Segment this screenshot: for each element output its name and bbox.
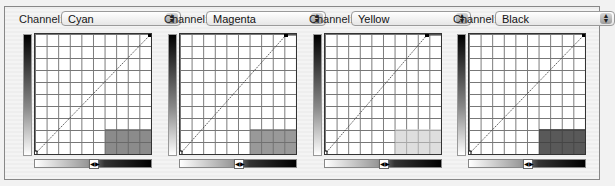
channel-value: Black [502,13,529,25]
left-right-arrows-icon[interactable]: ◀▶ [234,159,244,169]
curve-line [469,34,585,154]
curves-panel-group: Channel: Cyan▲▼ ◀▶ Channel: Magenta▲▼ ◀▶… [4,6,600,180]
input-gradient-bar[interactable]: ◀▶ [468,159,586,168]
channel-panel-yellow: Channel: Yellow▲▼ ◀▶ [295,7,441,179]
output-gradient-bar [168,34,177,156]
curve-graph[interactable] [324,33,442,155]
curve-line [35,34,151,154]
curve-graph[interactable] [468,33,586,155]
left-right-arrows-icon[interactable]: ◀▶ [379,159,389,169]
channel-label: Channel: [309,13,353,25]
channel-value: Cyan [68,13,94,25]
left-right-arrows-icon[interactable]: ◀▶ [523,159,533,169]
output-gradient-bar [23,34,32,156]
output-gradient-bar [313,34,322,156]
output-gradient-bar [457,34,466,156]
channel-panel-magenta: Channel: Magenta▲▼ ◀▶ [150,7,296,179]
channel-panel-black: Channel: Black▲▼ ◀▶ [439,7,585,179]
input-gradient-bar[interactable]: ◀▶ [34,159,152,168]
up-down-arrows-icon: ▲▼ [600,13,612,24]
curve-line [325,34,441,154]
input-gradient-bar[interactable]: ◀▶ [324,159,442,168]
left-right-arrows-icon[interactable]: ◀▶ [89,159,99,169]
input-gradient-bar[interactable]: ◀▶ [179,159,297,168]
curve-graph[interactable] [179,33,297,155]
channel-label: Channel: [453,13,497,25]
curve-graph[interactable] [34,33,152,155]
channel-value: Yellow [358,13,389,25]
channel-panel-cyan: Channel: Cyan▲▼ ◀▶ [5,7,151,179]
curve-line [180,34,296,154]
channel-value: Magenta [213,13,256,25]
channel-label: Channel: [164,13,208,25]
channel-select[interactable]: Black▲▼ [495,11,615,26]
channel-label: Channel: [19,13,63,25]
